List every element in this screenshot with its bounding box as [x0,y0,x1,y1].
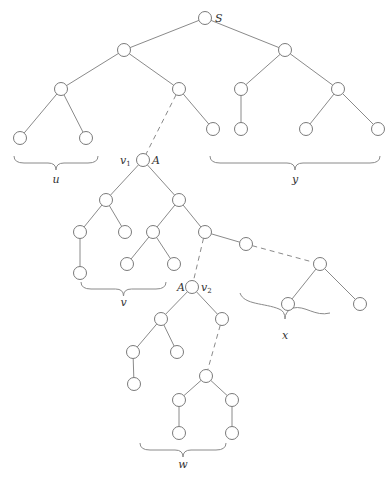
braces-layer [14,156,380,457]
tree-node-RLa [235,123,248,136]
tree-node-bL [147,226,160,239]
tree-node-d [314,258,327,271]
tree-node-v2LL [127,346,140,359]
edge-bR-c [211,234,240,242]
edge-b-bR [183,205,201,227]
tree-node-eR [226,394,239,407]
tree-node-S [199,12,212,25]
node-label-v1: v1 [120,154,131,168]
edge-LR-LRb [183,94,209,124]
tree-node-LL [55,83,68,96]
edge-R1-RL [246,54,280,84]
tree-node-eL [173,394,186,407]
edge-v2L-v2LR [164,325,174,346]
tree-node-v2 [186,281,199,294]
edge-L1-LR [129,54,173,85]
edges-layer [24,20,373,426]
tree-node-aL [74,226,87,239]
edge-L1-LL [67,53,119,85]
tree-node-v2L [155,313,168,326]
brace-label-y: y [291,173,299,186]
edge-v1-b [147,165,174,195]
tree-node-a [100,194,113,207]
edge-v2LL-v2LLL [133,358,134,377]
edge-b-bL [157,205,175,227]
edge-bL-bLR [157,237,171,258]
edge-v2R-e [208,325,220,369]
edge-e-eR [211,380,227,395]
tree-node-bR [199,226,212,239]
tree-node-L1 [118,44,131,57]
tree-node-v1 [137,154,150,167]
brace-y [210,156,380,170]
brace-u [14,156,98,170]
brace-w [140,443,226,457]
edge-LL-LLb [64,95,83,132]
tree-node-b [173,194,186,207]
tree-node-RRb [372,123,385,136]
tree-node-dL [282,298,295,311]
edge-R1-RR [290,54,333,85]
edge-LL-LLa [24,94,57,133]
parse-tree-diagram: uyvxwSv1AAv2 [0,0,389,483]
node-label-v2: v2 [201,281,212,295]
edge-e-eL [184,380,201,395]
tree-node-R1 [279,44,292,57]
edge-a-aL [84,205,102,227]
brace-label-v: v [120,296,127,309]
tree-node-v2LLL [128,378,141,391]
node-label-S: S [215,12,223,25]
tree-node-RL [235,83,248,96]
diagram-svg: uyvxwSv1AAv2 [0,0,389,483]
edge-LR-v1 [146,95,176,154]
edge-bR-v2 [193,238,203,280]
node-label-A: A [176,281,185,294]
tree-node-LLb [80,132,93,145]
edge-v2L-v2LL [137,324,157,347]
edge-d-dL [292,269,316,299]
edge-v1-a [110,165,138,195]
brace-label-w: w [178,458,188,471]
brace-v [81,282,166,296]
tree-node-c [240,238,253,251]
tree-node-eLL [173,427,186,440]
tree-node-LR [173,83,186,96]
edge-bL-bLL [131,237,149,259]
tree-node-RRa [300,123,313,136]
edge-RR-RRb [343,94,374,125]
nodes-layer [14,12,385,440]
tree-node-LLa [14,132,27,145]
edge-c-d [252,246,313,263]
tree-node-aLL [74,267,87,280]
edge-RR-RRa [310,94,334,124]
tree-node-v2LR [171,346,184,359]
tree-node-RR [332,83,345,96]
tree-node-eRR [226,427,239,440]
tree-node-v2R [216,313,229,326]
brace-label-u: u [52,173,59,186]
brace-label-x: x [282,329,289,342]
tree-node-dR [354,298,367,311]
tree-node-bLL [121,258,134,271]
edge-a-aR [109,206,121,227]
edge-S-L1 [130,20,199,47]
tree-node-LRb [207,123,220,136]
tree-node-aR [119,226,132,239]
tree-node-e [200,370,213,383]
node-label-A: A [151,154,160,167]
edge-v2-v2L [166,292,188,315]
tree-node-bLR [168,258,181,271]
edge-v2-v2R [196,292,217,315]
edge-d-dR [325,269,356,300]
